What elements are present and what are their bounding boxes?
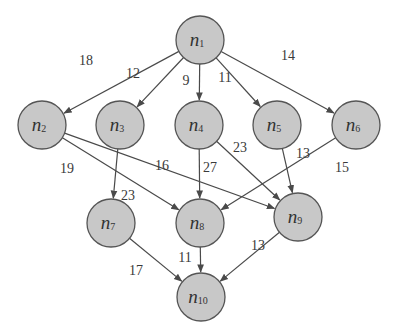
node-label-base: n (101, 212, 111, 233)
node-label-subscript: 8 (199, 221, 204, 232)
graph-node-n5: n5 (253, 101, 301, 149)
node-label-subscript: 7 (110, 221, 115, 232)
node-label-base: n (190, 212, 200, 233)
node-label-base: n (288, 206, 298, 227)
edge-weight-label: 17 (129, 263, 143, 278)
edge-n9-n10 (220, 232, 279, 281)
node-label-base: n (32, 114, 42, 135)
graph-node-n1: n1 (176, 16, 224, 64)
edge-weight-label: 13 (251, 238, 265, 253)
node-label-base: n (188, 286, 198, 307)
node-label-subscript: 6 (355, 123, 360, 134)
edge-weight-label: 11 (218, 70, 231, 85)
graph-node-n2: n2 (18, 101, 66, 149)
graph-node-n3: n3 (96, 101, 144, 149)
node-label-base: n (189, 114, 199, 135)
node-label-base: n (110, 114, 120, 135)
edge-weight-label: 19 (60, 161, 74, 176)
edge-weight-label: 27 (203, 160, 217, 175)
node-label-base: n (346, 114, 356, 135)
edge-weight-label: 23 (121, 188, 135, 203)
edge-n3-n7 (113, 149, 118, 198)
node-label-subscript: 10 (198, 295, 208, 306)
graph-node-n6: n6 (332, 101, 380, 149)
graph-node-n7: n7 (87, 199, 135, 247)
edge-weight-label: 15 (335, 160, 349, 175)
graph-node-n4: n4 (175, 101, 223, 149)
edge-weight-label: 16 (155, 158, 169, 173)
edge-weight-label: 12 (126, 66, 140, 81)
node-label-subscript: 2 (41, 123, 46, 134)
edge-weight-label: 18 (79, 53, 93, 68)
edge-n4-n8 (199, 149, 200, 198)
edge-weight-label: 13 (296, 146, 310, 161)
node-label-base: n (267, 114, 277, 135)
node-label-subscript: 4 (198, 123, 203, 134)
edge-weight-label: 9 (183, 73, 190, 88)
graph-node-n10: n10 (177, 273, 225, 321)
node-label-subscript: 1 (199, 38, 204, 49)
graph-node-n9: n9 (274, 193, 322, 241)
node-label-base: n (190, 29, 200, 50)
node-label-subscript: 3 (119, 123, 124, 134)
node-label-subscript: 5 (276, 123, 281, 134)
edge-n1-n3 (137, 58, 184, 107)
edge-weight-label: 23 (233, 140, 247, 155)
node-label-subscript: 9 (297, 215, 302, 226)
edge-weight-label: 14 (281, 48, 295, 63)
dag-diagram: 18129111419162327231315171113 n1n2n3n4n5… (0, 0, 397, 335)
graph-node-n8: n8 (176, 199, 224, 247)
edge-weight-label: 11 (178, 250, 191, 265)
